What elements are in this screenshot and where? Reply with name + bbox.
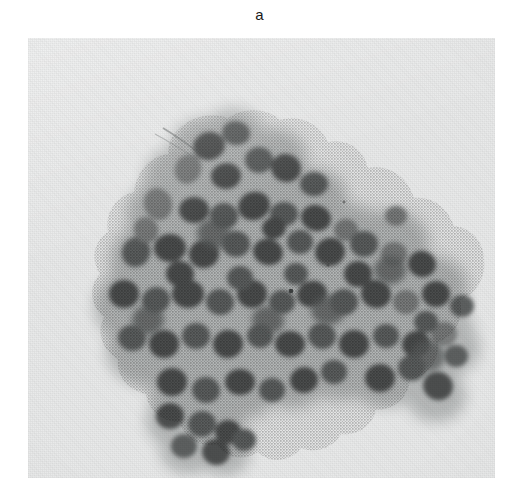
micrograph-plate [28, 38, 495, 478]
figure-root: a [0, 0, 519, 495]
panel-label: a [0, 6, 519, 24]
cell-cluster [28, 38, 495, 478]
